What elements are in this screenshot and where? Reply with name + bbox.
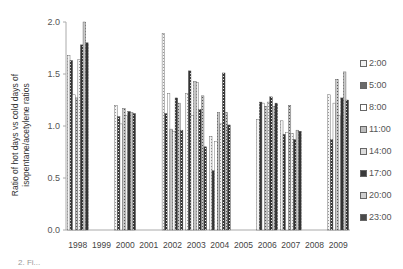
bar-2000-8:00 bbox=[120, 124, 123, 230]
x-tick-label: 2004 bbox=[210, 240, 229, 250]
plot-area: 1998199920002001200220032004200520062007… bbox=[0, 0, 403, 269]
bar-2004-20:00 bbox=[225, 112, 228, 230]
legend-label: 14:00 bbox=[369, 146, 392, 156]
x-tick-label: 2005 bbox=[234, 240, 253, 250]
bar-2004-5:00 bbox=[212, 171, 215, 230]
x-tick-label: 2000 bbox=[116, 240, 135, 250]
bar-2009-2:00 bbox=[328, 95, 331, 230]
svg-text:1.0: 1.0 bbox=[47, 121, 60, 131]
bar-2009-20:00 bbox=[343, 72, 346, 230]
bar-2007-14:00 bbox=[291, 133, 294, 230]
legend-swatch-icon bbox=[360, 60, 367, 67]
bar-1998-17:00 bbox=[80, 45, 83, 230]
legend-label: 17:00 bbox=[369, 168, 392, 178]
bar-2007-20:00 bbox=[296, 130, 299, 230]
x-tick-label: 2007 bbox=[281, 240, 300, 250]
svg-text:0.5: 0.5 bbox=[47, 173, 60, 183]
bar-2003-11:00 bbox=[194, 81, 197, 230]
bar-1998-8:00 bbox=[73, 95, 76, 230]
bar-2003-2:00 bbox=[186, 94, 189, 230]
bar-chart: 1998199920002001200220032004200520062007… bbox=[0, 0, 403, 269]
bar-2009-23:00 bbox=[346, 100, 349, 230]
bar-2009-17:00 bbox=[341, 98, 344, 230]
bar-1998-20:00 bbox=[83, 22, 86, 230]
bar-2009-8:00 bbox=[333, 103, 336, 230]
svg-text:1.5: 1.5 bbox=[47, 69, 60, 79]
bar-2004-23:00 bbox=[228, 125, 231, 230]
svg-text:0.0: 0.0 bbox=[47, 225, 60, 235]
legend-item-23:00: 23:00 bbox=[360, 206, 403, 228]
legend-label: 11:00 bbox=[369, 124, 391, 134]
bar-2003-5:00 bbox=[188, 71, 191, 230]
legend-swatch-icon bbox=[360, 82, 367, 89]
x-tick-label: 2008 bbox=[305, 240, 324, 250]
bar-2009-11:00 bbox=[336, 79, 339, 230]
bar-2004-11:00 bbox=[217, 112, 220, 230]
bars bbox=[67, 22, 348, 230]
bar-2000-2:00 bbox=[115, 105, 118, 230]
legend-swatch-icon bbox=[360, 170, 367, 177]
legend-item-11:00: 11:00 bbox=[360, 118, 403, 140]
legend-item-17:00: 17:00 bbox=[360, 162, 403, 184]
bar-2006-20:00 bbox=[272, 106, 275, 230]
legend-label: 23:00 bbox=[369, 212, 392, 222]
y-axis-title-line-2: isopentane/acetylene ratios bbox=[21, 74, 32, 196]
bar-2002-8:00 bbox=[167, 94, 170, 230]
bar-2006-17:00 bbox=[270, 97, 273, 230]
bar-2006-23:00 bbox=[275, 103, 278, 230]
bar-1998-14:00 bbox=[78, 59, 81, 230]
bar-2007-2:00 bbox=[280, 121, 283, 230]
x-tick-label: 1999 bbox=[92, 240, 111, 250]
bar-2009-14:00 bbox=[338, 116, 341, 230]
legend-item-20:00: 20:00 bbox=[360, 184, 403, 206]
bar-2006-2:00 bbox=[257, 120, 260, 230]
x-tick-label: 1998 bbox=[68, 240, 87, 250]
bar-2000-17:00 bbox=[128, 111, 131, 230]
bar-2007-17:00 bbox=[293, 140, 296, 230]
bar-2009-5:00 bbox=[330, 140, 333, 230]
x-tick-label: 2001 bbox=[139, 240, 158, 250]
y-axis-title-line-1: Ratio of hot days vs cold days of bbox=[10, 74, 21, 196]
bar-2003-14:00 bbox=[196, 82, 199, 230]
bar-2006-5:00 bbox=[259, 102, 262, 230]
bar-2003-20:00 bbox=[201, 96, 204, 230]
bar-2003-8:00 bbox=[191, 116, 194, 230]
bar-2007-8:00 bbox=[286, 132, 289, 230]
legend-swatch-icon bbox=[360, 104, 367, 111]
legend-label: 2:00 bbox=[369, 58, 387, 68]
legend-swatch-icon bbox=[360, 192, 367, 199]
bar-2002-17:00 bbox=[175, 98, 178, 230]
bar-2000-14:00 bbox=[125, 116, 128, 230]
bar-2006-11:00 bbox=[265, 106, 268, 230]
bar-1998-5:00 bbox=[70, 60, 73, 230]
x-tick-label: 2006 bbox=[258, 240, 277, 250]
legend-swatch-icon bbox=[360, 214, 367, 221]
bar-2000-5:00 bbox=[117, 117, 120, 230]
x-axis-labels: 1998199920002001200220032004200520062007… bbox=[68, 240, 348, 250]
legend-item-5:00: 5:00 bbox=[360, 74, 403, 96]
axes bbox=[66, 22, 350, 230]
legend: 2:00 5:00 8:00 11:00 14:00 17:00 20:00 bbox=[360, 52, 403, 228]
bar-1998-2:00 bbox=[67, 55, 70, 230]
bar-2000-11:00 bbox=[123, 108, 126, 230]
x-tick-label: 2009 bbox=[329, 240, 348, 250]
bar-2003-17:00 bbox=[199, 109, 202, 230]
bar-2004-17:00 bbox=[222, 73, 225, 230]
legend-label: 5:00 bbox=[369, 80, 387, 90]
legend-swatch-icon bbox=[360, 126, 367, 133]
svg-text:2.0: 2.0 bbox=[47, 17, 60, 27]
y-axis-labels: 0.00.51.01.52.0 bbox=[47, 17, 66, 235]
legend-item-14:00: 14:00 bbox=[360, 140, 403, 162]
bar-2004-8:00 bbox=[215, 142, 218, 230]
y-axis-title: Ratio of hot days vs cold days of isopen… bbox=[4, 45, 38, 225]
bar-2002-14:00 bbox=[173, 131, 176, 230]
bar-2006-8:00 bbox=[262, 103, 265, 230]
bar-2007-23:00 bbox=[299, 131, 302, 230]
bar-2007-11:00 bbox=[288, 105, 291, 230]
bar-2002-20:00 bbox=[178, 103, 181, 230]
legend-item-2:00: 2:00 bbox=[360, 52, 403, 74]
bar-2004-14:00 bbox=[220, 124, 223, 230]
bar-1998-23:00 bbox=[86, 43, 89, 230]
bar-2007-5:00 bbox=[283, 134, 286, 230]
figure-caption: 2. Fi... bbox=[18, 258, 40, 267]
